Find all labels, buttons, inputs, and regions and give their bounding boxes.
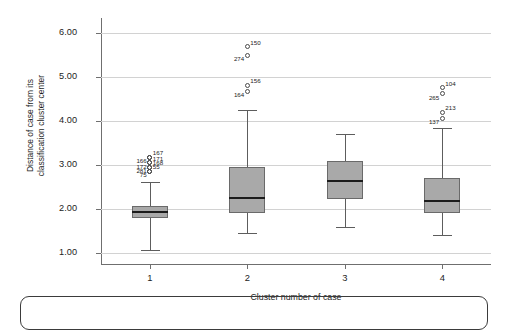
outlier-point (245, 53, 250, 58)
plot-area: 1.002.003.004.005.006.00 167166171172168… (101, 18, 491, 264)
y-axis-tick-label: 6.00 (31, 27, 77, 37)
median-line (229, 197, 265, 199)
y-axis-tick-label: 4.00 (31, 115, 77, 125)
y-axis-tick-label: 2.00 (31, 203, 77, 213)
box (424, 178, 460, 212)
whisker-cap-lower (336, 227, 355, 228)
y-axis-tick (96, 209, 101, 210)
y-axis-tick (96, 121, 101, 122)
y-axis-tick-label: 5.00 (31, 71, 77, 81)
outlier-label: 164 (227, 92, 244, 98)
x-axis-tick-label: 4 (422, 272, 462, 283)
outlier-label: 150 (250, 40, 260, 46)
x-axis-tick (345, 264, 346, 269)
whisker-lower (150, 218, 151, 250)
outlier-label: 104 (445, 81, 455, 87)
outlier-point (440, 91, 445, 96)
median-line (327, 180, 363, 182)
outlier-label: 137 (422, 119, 439, 125)
outlier-point (147, 155, 152, 160)
whisker-cap-lower (433, 235, 452, 236)
whisker-upper (150, 182, 151, 206)
outlier-label: 213 (445, 105, 455, 111)
outlier-label: 156 (250, 78, 260, 84)
whisker-lower (345, 199, 346, 226)
whisker-lower (247, 213, 248, 233)
outlier-point (245, 89, 250, 94)
y-axis-tick-label: 1.00 (31, 247, 77, 257)
outlier-label: 55 (153, 164, 160, 170)
gridline (101, 253, 491, 254)
x-axis-line (101, 264, 491, 265)
whisker-cap-upper (238, 110, 257, 111)
median-line (424, 200, 460, 202)
x-axis-tick (150, 264, 151, 269)
x-axis-tick (247, 264, 248, 269)
whisker-lower (442, 213, 443, 236)
y-axis-tick (96, 33, 101, 34)
median-line (132, 211, 168, 213)
outlier-label: 265 (422, 95, 439, 101)
outlier-point (440, 85, 445, 90)
x-axis-tick-label: 3 (325, 272, 365, 283)
y-axis-tick (96, 253, 101, 254)
outlier-point (245, 83, 250, 88)
whisker-upper (442, 128, 443, 179)
y-axis-line (101, 18, 102, 264)
gridline (101, 77, 491, 78)
y-axis-tick (96, 165, 101, 166)
gridline (101, 33, 491, 34)
outlier-point (147, 169, 152, 174)
y-axis-tick (96, 77, 101, 78)
x-axis-tick (442, 264, 443, 269)
whisker-cap-upper (336, 134, 355, 135)
whisker-cap-lower (238, 233, 257, 234)
box (229, 167, 265, 213)
outlier-label: 274 (227, 56, 244, 62)
caption-frame (20, 296, 488, 330)
outlier-label: 75 (130, 172, 147, 178)
x-axis-tick-label: 2 (227, 272, 267, 283)
whisker-cap-lower (141, 250, 160, 251)
whisker-upper (345, 134, 346, 160)
outlier-point (245, 44, 250, 49)
whisker-upper (247, 110, 248, 167)
outlier-point (440, 110, 445, 115)
whisker-cap-upper (433, 128, 452, 129)
whisker-cap-upper (141, 182, 160, 183)
y-axis-tick-label: 3.00 (31, 159, 77, 169)
x-axis-tick-label: 1 (130, 272, 170, 283)
outlier-point (440, 116, 445, 121)
